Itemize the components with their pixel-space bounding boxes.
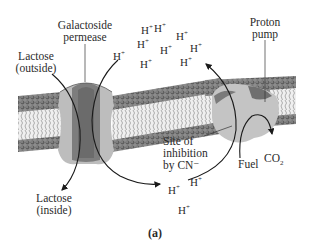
lactose-outside-line1: Lactose <box>14 50 58 62</box>
proton-outside: H+ <box>140 58 152 70</box>
proton-pump-label: Proton pump <box>240 16 290 40</box>
proton-outside: H+ <box>137 38 149 50</box>
proton-pump-line1: Proton <box>240 16 290 28</box>
proton-outside: H+ <box>154 22 166 34</box>
lactose-inside-line1: Lactose <box>32 192 76 204</box>
proton-outside: H+ <box>113 50 125 62</box>
proton-outside: H+ <box>160 44 172 56</box>
membrane-left <box>18 92 62 152</box>
lactose-inside-label: Lactose (inside) <box>32 192 76 216</box>
permease-label: Galactoside permease <box>54 19 116 43</box>
proton-inside: H+ <box>190 176 202 188</box>
proton-pump-line2: pump <box>240 28 290 40</box>
proton-outside: H+ <box>176 30 188 42</box>
permease-label-line2: permease <box>54 31 116 43</box>
proton-inside: H+ <box>168 184 180 196</box>
permease-label-line1: Galactoside <box>54 19 116 31</box>
co2-subscript: 2 <box>280 159 284 167</box>
galactoside-permease-protein <box>58 83 114 164</box>
proton-inside: H+ <box>178 204 190 216</box>
inhibition-site-label: Site of inhibition by CN⁻ <box>163 135 208 171</box>
lactose-outside-line2: (outside) <box>14 62 58 74</box>
lactose-outside-label: Lactose (outside) <box>14 50 58 74</box>
lactose-inside-line2: (inside) <box>32 204 76 216</box>
proton-outside: H+ <box>190 42 202 54</box>
proton-outside: H+ <box>180 56 192 68</box>
co2-main: CO <box>264 152 280 164</box>
fuel-label: Fuel <box>238 158 258 170</box>
figure-caption: (a) <box>148 226 162 241</box>
inhibition-line2: inhibition <box>163 147 208 159</box>
co2-label: CO2 <box>264 152 283 169</box>
proton-pump-protein <box>212 84 279 143</box>
proton-outside: H+ <box>141 24 153 36</box>
inhibition-line1: Site of <box>163 135 208 147</box>
inhibition-line3: by CN⁻ <box>163 159 208 171</box>
